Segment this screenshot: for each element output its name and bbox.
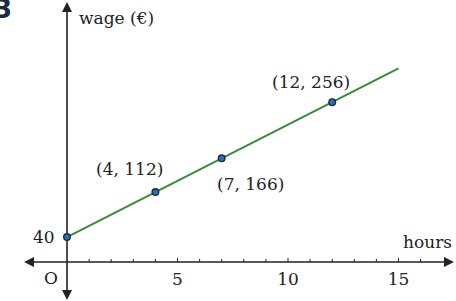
x-axis-label: hours [403, 232, 452, 252]
y-axis-label: wage (€) [79, 8, 154, 28]
origin-label: O [44, 268, 58, 288]
wage-line [67, 68, 399, 237]
y-intercept-label: 40 [33, 227, 55, 247]
x-tick-label: 5 [172, 269, 183, 289]
data-point [218, 155, 225, 162]
point-label-4-112: (4, 112) [96, 159, 163, 179]
chart: 51015 wage (€) hours O 40 (4, 112) (7, 1… [0, 0, 456, 301]
x-tick-label: 15 [388, 269, 410, 289]
x-tick-labels: 51015 [172, 269, 409, 289]
data-point [152, 189, 159, 196]
point-label-12-256: (12, 256) [272, 72, 350, 92]
x-tick-label: 10 [277, 269, 299, 289]
data-point [64, 234, 71, 241]
data-point [329, 99, 336, 106]
point-label-7-166: (7, 166) [217, 174, 284, 194]
